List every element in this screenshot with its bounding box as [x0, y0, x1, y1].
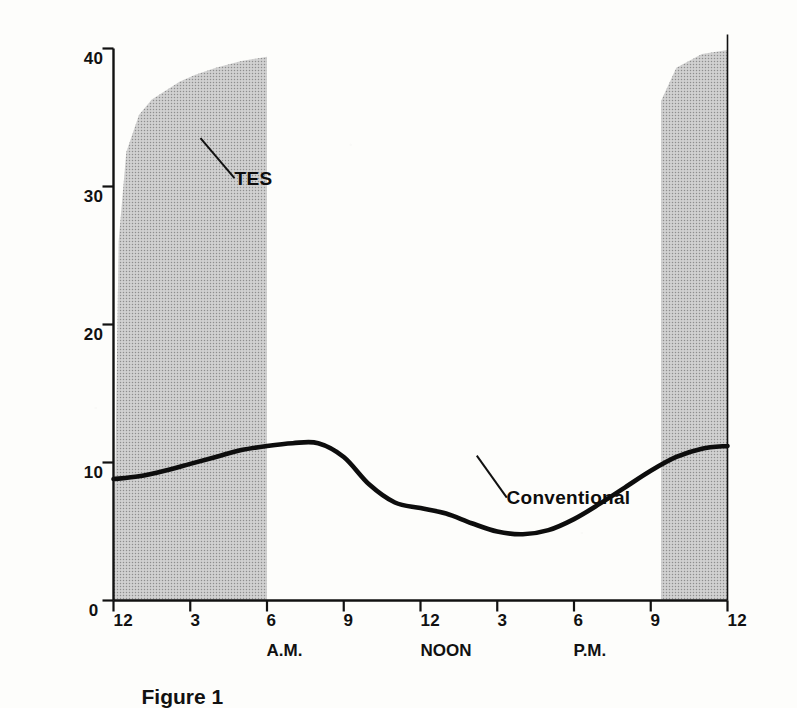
value-tick-label: 20	[83, 324, 102, 344]
period-label: A.M.	[267, 640, 303, 660]
figure-caption: Figure 1	[141, 684, 223, 708]
annotation-tes: TES	[234, 167, 272, 189]
series-tes-area	[113, 49, 727, 600]
value-tick-label: 10	[83, 462, 102, 482]
period-label: P.M.	[574, 640, 607, 660]
annotation-conventional: Conventional	[506, 486, 630, 508]
time-tick-label: 9	[650, 610, 660, 630]
time-tick-label: 12	[420, 610, 439, 630]
time-tick-label: 12	[113, 610, 132, 630]
time-tick-label: 12	[727, 610, 746, 630]
time-tick-label: 6	[574, 610, 584, 630]
plot-region	[113, 48, 727, 600]
time-tick-label: 6	[267, 610, 277, 630]
value-tick-label: 40	[83, 48, 102, 68]
chart-area: 010203040 123691236912 A.M.NOONP.M. TESC…	[113, 48, 727, 600]
value-tick-label: 30	[83, 186, 102, 206]
time-tick-label: 3	[497, 610, 507, 630]
time-tick-label: 9	[343, 610, 353, 630]
chart-svg	[113, 48, 727, 600]
time-tick-label: 3	[190, 610, 200, 630]
value-tick-label: 0	[88, 600, 98, 620]
period-label: NOON	[420, 640, 471, 660]
